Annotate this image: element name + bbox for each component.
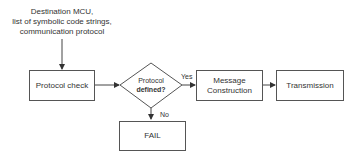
decision-label: Protocol defined? bbox=[126, 76, 176, 94]
transmission-label: Transmission bbox=[286, 81, 333, 91]
message-construction-box: Message Construction bbox=[196, 70, 263, 101]
no-label: No bbox=[160, 111, 169, 118]
transmission-box: Transmission bbox=[276, 70, 344, 101]
input-label-line3: communication protocol bbox=[0, 27, 124, 37]
decision-line2: defined? bbox=[126, 85, 176, 94]
protocol-check-label: Protocol check bbox=[36, 81, 88, 91]
fail-label: FAIL bbox=[144, 131, 160, 141]
yes-label: Yes bbox=[181, 73, 192, 80]
protocol-check-box: Protocol check bbox=[29, 70, 95, 101]
decision-line1: Protocol bbox=[126, 76, 176, 85]
input-label: Destination MCU, list of symbolic code s… bbox=[0, 7, 124, 37]
fail-box: FAIL bbox=[119, 121, 186, 151]
message-line1: Message bbox=[207, 76, 252, 86]
input-label-line1: Destination MCU, bbox=[0, 7, 124, 17]
input-label-line2: list of symbolic code strings, bbox=[0, 17, 124, 27]
message-line2: Construction bbox=[207, 86, 252, 96]
